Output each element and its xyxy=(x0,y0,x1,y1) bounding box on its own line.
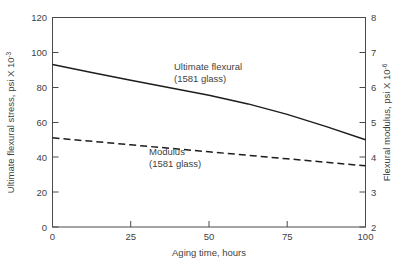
left-tick-label-80: 80 xyxy=(36,82,47,93)
x-tick-label-25: 25 xyxy=(125,231,136,242)
right-tick-label-8: 8 xyxy=(371,12,376,23)
line-chart: 0 20 40 60 80 100 120 2 3 4 5 6 7 8 0 25… xyxy=(0,0,398,264)
chart-figure: 0 20 40 60 80 100 120 2 3 4 5 6 7 8 0 25… xyxy=(0,0,398,264)
right-axis-title-exponent: -6 xyxy=(381,63,388,69)
ultimate-flexural-annotation-line1: Ultimate flexural xyxy=(174,61,242,72)
left-tick-label-100: 100 xyxy=(31,47,47,58)
x-tick-label-0: 0 xyxy=(50,231,55,242)
left-axis-title-text: Ultimate flexural stress, psi X 10 xyxy=(5,58,16,194)
right-tick-label-6: 6 xyxy=(371,82,376,93)
right-tick-label-7: 7 xyxy=(371,47,376,58)
right-axis-title-text: Flexural modulus, psi X 10 xyxy=(381,69,392,181)
left-tick-label-120: 120 xyxy=(31,12,47,23)
left-axis-title: Ultimate flexural stress, psi X 10-3 xyxy=(5,51,17,193)
x-tick-label-75: 75 xyxy=(282,231,293,242)
right-tick-label-4: 4 xyxy=(371,152,376,163)
left-tick-label-0: 0 xyxy=(42,222,47,233)
ultimate-flexural-annotation-line2: (1581 glass) xyxy=(174,73,226,84)
left-tick-label-40: 40 xyxy=(36,152,47,163)
modulus-annotation-line1: Modulus xyxy=(149,146,185,157)
modulus-annotation-line2: (1581 glass) xyxy=(149,158,201,169)
x-axis-title: Aging time, hours xyxy=(172,247,246,258)
right-axis-title: Flexural modulus, psi X 10-6 xyxy=(381,63,393,181)
x-tick-label-100: 100 xyxy=(358,231,374,242)
left-axis-title-exponent: -3 xyxy=(5,51,12,57)
right-tick-label-5: 5 xyxy=(371,117,376,128)
left-tick-label-20: 20 xyxy=(36,187,47,198)
right-tick-label-3: 3 xyxy=(371,187,376,198)
x-tick-label-50: 50 xyxy=(204,231,215,242)
chart-background xyxy=(0,0,398,264)
left-tick-label-60: 60 xyxy=(36,117,47,128)
